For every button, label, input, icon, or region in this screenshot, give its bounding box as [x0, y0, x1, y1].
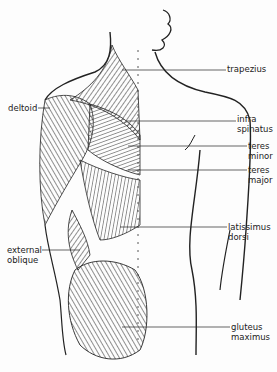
label-teres-minor-line1: teres — [248, 141, 273, 151]
label-teres-major: teres major — [248, 165, 273, 185]
label-external-oblique-line1: external — [7, 245, 42, 255]
label-deltoid: deltoid — [8, 103, 37, 113]
label-trapezius: trapezius — [227, 64, 266, 74]
back-muscles-illustration — [0, 0, 277, 372]
label-gluteus-line2: maximus — [231, 332, 270, 342]
label-gluteus-maximus: gluteus maximus — [231, 322, 270, 342]
label-external-oblique: external oblique — [7, 245, 42, 265]
label-latissimus-line1: latissimus — [228, 222, 271, 232]
label-latissimus-dorsi: latissimus dorsi — [228, 222, 271, 242]
label-gluteus-line1: gluteus — [231, 322, 270, 332]
label-external-oblique-line2: oblique — [7, 255, 42, 265]
label-infra-spinatus-line1: infra — [237, 114, 273, 124]
label-teres-minor: teres minor — [248, 141, 273, 161]
label-infra-spinatus: infra spinatus — [237, 114, 273, 134]
label-teres-minor-line2: minor — [248, 151, 273, 161]
label-teres-major-line1: teres — [248, 165, 273, 175]
anatomy-diagram: trapezius deltoid infra spinatus teres m… — [0, 0, 277, 372]
label-latissimus-line2: dorsi — [228, 232, 271, 242]
label-teres-major-line2: major — [248, 175, 273, 185]
label-infra-spinatus-line2: spinatus — [237, 124, 273, 134]
